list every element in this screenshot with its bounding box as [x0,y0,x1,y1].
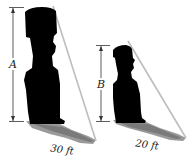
small-statue-group: B 20 ft [96,41,186,152]
large-statue-group: A 30 ft [8,6,96,157]
arrow-down-icon [11,116,15,121]
small-statue-silhouette [113,45,146,123]
height-label-b: B [96,78,105,91]
arrow-up-icon [99,46,103,51]
shadow-length-label-30: 30 ft [50,142,76,156]
arrow-down-icon [99,116,103,121]
shadow-diagram: A 30 ft B 20 ft [0,0,193,159]
height-label-a: A [8,58,17,71]
arrow-up-icon [11,8,15,13]
shadow-length-label-20: 20 ft [134,137,161,151]
